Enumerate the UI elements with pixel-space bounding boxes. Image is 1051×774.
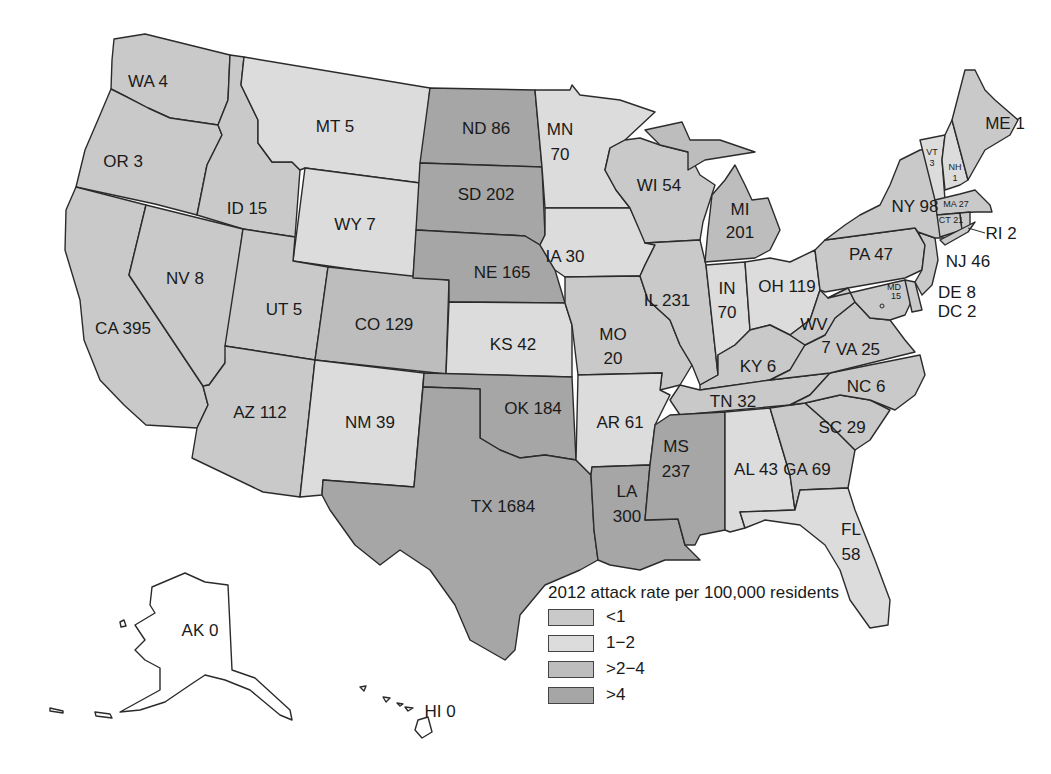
label-NH-1: NH bbox=[949, 162, 962, 172]
legend-label: >2−4 bbox=[606, 659, 645, 679]
label-IL: IL 231 bbox=[644, 291, 691, 310]
label-MS-2: 237 bbox=[662, 462, 690, 481]
ri-leader-line bbox=[968, 228, 985, 233]
label-IN-2: 70 bbox=[718, 303, 737, 322]
hi-island bbox=[405, 707, 413, 711]
label-FL-1: FL bbox=[841, 520, 861, 539]
label-TX: TX 1684 bbox=[471, 497, 535, 516]
label-NH-2: 1 bbox=[952, 173, 957, 183]
legend-swatch bbox=[548, 635, 594, 652]
label-VT-2: 3 bbox=[929, 158, 934, 168]
label-MN-1: MN bbox=[547, 120, 573, 139]
label-MN-2: 70 bbox=[551, 145, 570, 164]
label-OK: OK 184 bbox=[504, 399, 562, 418]
label-IN-1: IN bbox=[719, 279, 736, 298]
label-UT: UT 5 bbox=[266, 300, 303, 319]
state-DC[interactable] bbox=[880, 304, 884, 308]
label-ID: ID 15 bbox=[227, 199, 268, 218]
label-GA: GA 69 bbox=[783, 460, 830, 479]
label-MI-2: 201 bbox=[726, 223, 754, 242]
label-MT: MT 5 bbox=[316, 117, 354, 136]
legend-swatch bbox=[548, 661, 594, 678]
legend-item-gt4: >4 bbox=[548, 682, 848, 708]
legend-title: 2012 attack rate per 100,000 residents bbox=[548, 582, 848, 604]
label-IA: IA 30 bbox=[546, 247, 585, 266]
label-PA: PA 47 bbox=[849, 245, 893, 264]
legend: 2012 attack rate per 100,000 residents <… bbox=[548, 582, 848, 708]
label-ME: ME 1 bbox=[985, 114, 1025, 133]
label-CA: CA 395 bbox=[95, 319, 151, 338]
us-map: WA 4 OR 3 CA 395 ID 15 NV 8 MT 5 WY 7 UT… bbox=[0, 0, 1051, 774]
label-OR: OR 3 bbox=[103, 152, 143, 171]
label-WV-1: WV bbox=[800, 315, 828, 334]
label-MD-2: 15 bbox=[891, 291, 901, 301]
label-SD: SD 202 bbox=[458, 185, 515, 204]
label-ND: ND 86 bbox=[462, 119, 510, 138]
label-FL-2: 58 bbox=[842, 545, 861, 564]
legend-label: <1 bbox=[606, 607, 625, 627]
label-LA-2: 300 bbox=[613, 507, 641, 526]
label-WI: WI 54 bbox=[637, 176, 681, 195]
label-AK: AK 0 bbox=[182, 621, 219, 640]
label-AZ: AZ 112 bbox=[233, 403, 287, 422]
legend-swatch bbox=[548, 687, 594, 704]
label-RI: RI 2 bbox=[985, 224, 1016, 243]
label-WA: WA 4 bbox=[128, 72, 168, 91]
label-AR: AR 61 bbox=[596, 413, 643, 432]
label-AL: AL 43 bbox=[734, 460, 778, 479]
legend-item-1-2: 1−2 bbox=[548, 630, 848, 656]
label-SC: SC 29 bbox=[818, 418, 865, 437]
label-VT-1: VT bbox=[926, 147, 938, 157]
label-KS: KS 42 bbox=[490, 335, 536, 354]
label-DC: DC 2 bbox=[938, 302, 977, 321]
state-AK[interactable] bbox=[120, 573, 292, 720]
label-KY: KY 6 bbox=[740, 357, 777, 376]
label-VA: VA 25 bbox=[836, 340, 880, 359]
label-NM: NM 39 bbox=[345, 413, 395, 432]
legend-label: >4 bbox=[606, 685, 625, 705]
ak-island bbox=[50, 708, 63, 713]
label-NY: NY 98 bbox=[892, 197, 939, 216]
hi-island bbox=[360, 686, 366, 691]
label-CT: CT 21 bbox=[939, 215, 963, 225]
label-MO-1: MO bbox=[599, 325, 626, 344]
ak-island bbox=[120, 620, 126, 627]
label-NC: NC 6 bbox=[847, 377, 886, 396]
label-WY: WY 7 bbox=[334, 215, 375, 234]
label-CO: CO 129 bbox=[355, 315, 414, 334]
label-HI: HI 0 bbox=[424, 702, 455, 721]
legend-item-2-4: >2−4 bbox=[548, 656, 848, 682]
label-MO-2: 20 bbox=[604, 349, 623, 368]
legend-label: 1−2 bbox=[606, 633, 635, 653]
label-MS-1: MS bbox=[663, 437, 689, 456]
label-NJ: NJ 46 bbox=[946, 252, 990, 271]
legend-swatch bbox=[548, 609, 594, 626]
label-WV-2: 7 bbox=[821, 338, 830, 357]
label-TN: TN 32 bbox=[710, 392, 756, 411]
label-OH: OH 119 bbox=[758, 277, 815, 296]
ak-island bbox=[95, 712, 112, 718]
label-LA-1: LA bbox=[617, 482, 638, 501]
hi-island bbox=[383, 697, 390, 702]
label-DE: DE 8 bbox=[938, 283, 976, 302]
hi-island bbox=[397, 703, 403, 706]
label-NE: NE 165 bbox=[474, 263, 531, 282]
label-MA: MA 27 bbox=[943, 199, 969, 209]
label-MI-1: MI bbox=[731, 200, 750, 219]
legend-item-lt1: <1 bbox=[548, 604, 848, 630]
label-NV: NV 8 bbox=[166, 269, 204, 288]
